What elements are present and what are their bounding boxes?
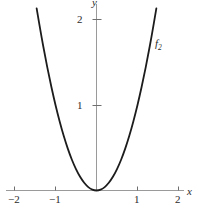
plot-canvas (0, 0, 199, 211)
y-axis-label: y (92, 0, 97, 8)
x-tick-label-minus-2: −2 (8, 194, 20, 205)
curve-label-f2: f2 (155, 38, 162, 52)
x-tick-label-plus-2: 2 (175, 194, 181, 205)
x-axis-label: x (187, 186, 192, 197)
x-tick-label-minus-1: −1 (49, 194, 61, 205)
x-tick-label-plus-1: 1 (134, 194, 140, 205)
parabola-figure: −2 −1 1 2 1 2 x y f2 (0, 0, 199, 211)
y-tick-label-2: 2 (77, 14, 83, 25)
y-tick-label-1: 1 (77, 100, 83, 111)
curve-label-f2-subscript: 2 (158, 43, 162, 52)
